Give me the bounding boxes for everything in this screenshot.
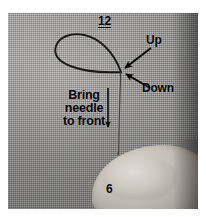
arrow-up-pointer — [125, 48, 151, 68]
figure-root: 12 Up Down 6 Bring needle to front — [0, 0, 206, 217]
instruction-bring-needle-to-front: Bring needle to front — [51, 89, 117, 127]
label-down: Down — [142, 82, 174, 94]
label-12: 12 — [98, 15, 111, 28]
label-up: Up — [146, 34, 162, 46]
thread-loop — [55, 34, 121, 72]
instruction-line-2: needle — [51, 102, 117, 115]
label-6: 6 — [106, 183, 112, 195]
instruction-line-3: to front — [51, 115, 117, 128]
instruction-line-1: Bring — [51, 89, 117, 102]
